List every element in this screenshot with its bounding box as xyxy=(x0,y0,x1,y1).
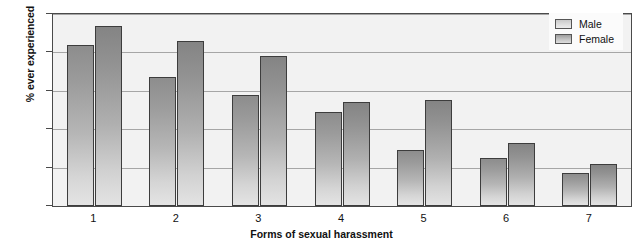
legend-swatch-male xyxy=(555,19,572,29)
x-tick-label: 5 xyxy=(404,212,444,224)
x-tick-label: 6 xyxy=(486,212,526,224)
chart-legend: Male Female xyxy=(549,13,623,50)
bar-male-1 xyxy=(67,45,94,206)
x-tick-label: 4 xyxy=(321,212,361,224)
bar-female-6 xyxy=(508,143,535,206)
legend-item-male: Male xyxy=(555,18,614,30)
legend-label-male: Male xyxy=(579,18,602,30)
bar-female-3 xyxy=(260,56,287,206)
x-tick-label: 7 xyxy=(569,212,609,224)
bar-female-4 xyxy=(343,102,370,206)
x-tick-label: 2 xyxy=(156,212,196,224)
bar-male-7 xyxy=(562,173,589,206)
bar-female-1 xyxy=(95,26,122,206)
bar-female-7 xyxy=(590,164,617,206)
x-tick-label: 1 xyxy=(73,212,113,224)
bar-male-6 xyxy=(480,158,507,206)
x-tick-label: 3 xyxy=(238,212,278,224)
bar-male-4 xyxy=(315,112,342,206)
gridline xyxy=(53,52,631,53)
legend-swatch-female xyxy=(555,34,572,44)
legend-label-female: Female xyxy=(579,33,614,45)
bar-female-5 xyxy=(425,100,452,206)
gridline xyxy=(53,14,631,15)
legend-item-female: Female xyxy=(555,33,614,45)
gridline xyxy=(53,91,631,92)
bar-male-2 xyxy=(149,77,176,206)
y-axis-title: % ever experienced xyxy=(24,0,36,144)
plot-area xyxy=(52,13,632,207)
bar-chart-figure: % ever experienced 020406080100 1234567 … xyxy=(0,0,643,245)
bar-female-2 xyxy=(177,41,204,206)
x-axis-title: Forms of sexual harassment xyxy=(0,228,643,240)
bar-male-5 xyxy=(397,150,424,206)
bar-male-3 xyxy=(232,95,259,206)
